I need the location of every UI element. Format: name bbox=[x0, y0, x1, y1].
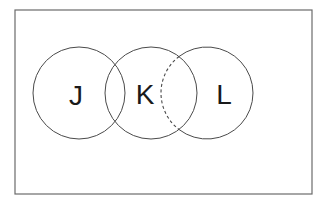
universe-rectangle bbox=[15, 10, 312, 194]
set-j-label: J bbox=[69, 80, 83, 111]
set-l-label: L bbox=[216, 79, 232, 110]
venn-diagram: J K L bbox=[0, 0, 327, 204]
set-k-label: K bbox=[136, 79, 155, 110]
